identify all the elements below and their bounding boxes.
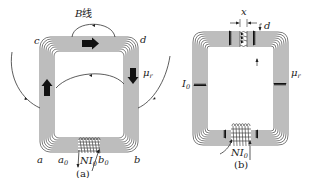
excitation-label-a: NI0 (79, 155, 97, 168)
b-line-label: B线 (74, 7, 92, 19)
gap-label-x: x (241, 6, 247, 17)
permeability-label-a: μr (143, 67, 154, 80)
arrow-icon (89, 74, 92, 77)
corner-label-d: d (140, 34, 146, 45)
diagram-canvas: B线 c d a b μr a0 b0 NI0 (a) (0, 0, 309, 178)
figure-caption-a: (a) (76, 168, 90, 178)
figure-b: x d μr I0 NI0 (b) (181, 6, 302, 170)
arrow-icon (25, 97, 28, 100)
permeability-label-b: μr (291, 67, 302, 80)
gap-dimension-x (230, 19, 257, 27)
flux-arrow-right (128, 68, 139, 84)
core-field-lines-a (40, 37, 138, 152)
corner-label-b: b (134, 154, 140, 165)
thickness-dimension-d (256, 24, 263, 66)
leakage-line-right (138, 56, 170, 108)
corner-label-a: a (37, 154, 43, 165)
corner-label-c: c (34, 35, 40, 46)
coil-b (231, 124, 251, 146)
coil-terminal-b0: b0 (98, 154, 109, 167)
thickness-label-d: d (264, 20, 270, 31)
figure-caption-b: (b) (234, 159, 248, 170)
flux-arrows-left-b (194, 83, 207, 86)
coil-a (78, 138, 100, 153)
coil-terminal-a0: a0 (58, 154, 68, 167)
current-label-i0: I0 (181, 78, 190, 91)
arrow-icon (153, 97, 156, 100)
figure-a: B线 c d a b μr a0 b0 NI0 (a) (11, 7, 170, 178)
flux-arrow-left (42, 79, 53, 96)
